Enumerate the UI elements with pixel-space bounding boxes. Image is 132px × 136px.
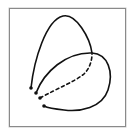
upper-loop-curve	[31, 16, 92, 88]
endpoint-dot	[34, 91, 38, 95]
endpoint-dot	[29, 86, 33, 90]
dashed-inner-line	[40, 54, 92, 98]
endpoint-dot	[42, 104, 46, 108]
endpoint-dot	[38, 96, 42, 100]
loop-drawing	[0, 0, 132, 136]
